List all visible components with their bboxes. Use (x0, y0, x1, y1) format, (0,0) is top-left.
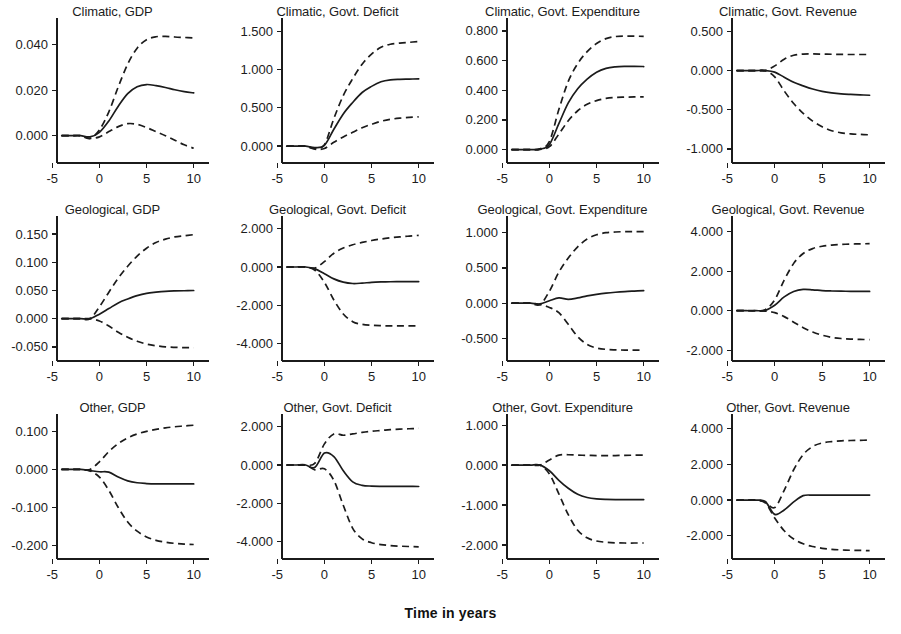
y-tick-label: -2.000 (236, 298, 273, 313)
x-tick-label: 10 (411, 567, 425, 582)
confidence-band-line (737, 440, 870, 508)
x-tick-label: 5 (143, 567, 150, 582)
y-tick-label: -1.000 (461, 498, 498, 513)
x-tick-label: 5 (368, 171, 375, 186)
plot-area: -0.5000.0000.5001.000-50510 (450, 198, 675, 396)
confidence-band-line (62, 425, 194, 470)
y-tick-label: 1.000 (465, 418, 498, 433)
y-tick-label: 1.500 (240, 24, 273, 39)
confidence-band-line (512, 303, 644, 350)
point-estimate-line (512, 291, 644, 304)
y-tick-label: 2.000 (240, 419, 273, 434)
confidence-band-line (737, 244, 870, 311)
point-estimate-line (737, 495, 870, 515)
plot-area: 0.0000.0200.040-50510 (0, 0, 225, 198)
confidence-band-line (62, 235, 194, 320)
x-tick-label: -5 (497, 369, 509, 384)
point-estimate-line (512, 66, 644, 149)
x-tick-label: -5 (721, 567, 733, 582)
y-tick-label: -0.100 (11, 500, 48, 515)
y-tick-label: 0.000 (15, 128, 48, 143)
y-tick-label: 0.000 (690, 63, 723, 78)
y-tick-label: 2.000 (690, 457, 723, 472)
x-tick-label: 5 (593, 567, 600, 582)
y-tick-label: 2.000 (690, 264, 723, 279)
y-tick-label: -2.000 (686, 528, 723, 543)
x-tick-label: -5 (47, 567, 59, 582)
y-tick-label: -0.500 (686, 102, 723, 117)
y-tick-label: 0.040 (15, 37, 48, 52)
x-tick-label: 10 (636, 567, 650, 582)
confidence-band-line (62, 319, 194, 348)
y-tick-label: 1.000 (240, 62, 273, 77)
point-estimate-line (737, 70, 870, 95)
point-estimate-line (62, 469, 194, 484)
x-tick-label: 0 (771, 369, 778, 384)
point-estimate-line (287, 452, 419, 486)
x-tick-label: 10 (636, 369, 650, 384)
y-tick-label: 0.600 (465, 53, 498, 68)
x-tick-label: 5 (593, 171, 600, 186)
confidence-band-line (512, 464, 644, 543)
y-tick-label: -4.000 (236, 534, 273, 549)
x-tick-label: 10 (411, 171, 425, 186)
x-tick-label: 5 (593, 369, 600, 384)
y-tick-label: 4.000 (690, 421, 723, 436)
point-estimate-line (287, 267, 419, 284)
y-tick-label: 0.000 (465, 142, 498, 157)
y-tick-label: -1.000 (686, 141, 723, 156)
plot-area: -0.0500.0000.0500.1000.150-50510 (0, 198, 225, 396)
chart-panel: Other, Govt. Expenditure-2.000-1.0000.00… (450, 396, 675, 594)
x-tick-label: 5 (819, 171, 826, 186)
y-tick-label: 2.000 (240, 221, 273, 236)
x-tick-label: 0 (321, 567, 328, 582)
confidence-band-line (287, 235, 419, 268)
point-estimate-line (62, 85, 194, 137)
y-tick-label: 0.000 (240, 458, 273, 473)
y-tick-label: -0.050 (11, 339, 48, 354)
x-tick-label: 10 (862, 171, 876, 186)
confidence-band-line (287, 428, 419, 465)
chart-panel: Climatic, Govt. Deficit0.0000.5001.0001.… (225, 0, 450, 198)
y-tick-label: -2.000 (461, 538, 498, 553)
x-tick-label: 5 (143, 171, 150, 186)
chart-panel: Geological, GDP-0.0500.0000.0500.1000.15… (0, 198, 225, 396)
chart-panel: Climatic, GDP0.0000.0200.040-50510 (0, 0, 225, 198)
y-tick-label: 0.000 (465, 296, 498, 311)
x-tick-label: 10 (862, 369, 876, 384)
y-tick-label: -4.000 (236, 336, 273, 351)
y-tick-label: 0.000 (465, 458, 498, 473)
x-tick-label: 10 (186, 171, 200, 186)
x-tick-label: 5 (143, 369, 150, 384)
y-tick-label: 0.000 (240, 139, 273, 154)
confidence-band-line (512, 36, 644, 150)
point-estimate-line (737, 289, 870, 311)
x-axis-label: Time in years (0, 605, 901, 621)
y-tick-label: -2.000 (236, 496, 273, 511)
y-tick-label: 0.000 (240, 260, 273, 275)
x-tick-label: 0 (96, 369, 103, 384)
y-tick-label: 0.000 (15, 462, 48, 477)
confidence-band-line (512, 455, 644, 466)
y-tick-label: 0.000 (15, 311, 48, 326)
chart-panel: Geological, Govt. Expenditure-0.5000.000… (450, 198, 675, 396)
chart-panel: Climatic, Govt. Revenue-1.000-0.5000.000… (675, 0, 901, 198)
x-tick-label: 10 (186, 567, 200, 582)
y-tick-label: 0.800 (465, 23, 498, 38)
y-tick-label: -0.500 (461, 331, 498, 346)
x-tick-label: 0 (96, 171, 103, 186)
x-tick-label: -5 (721, 369, 733, 384)
y-tick-label: 0.050 (15, 283, 48, 298)
y-tick-label: -2.000 (686, 343, 723, 358)
x-tick-label: 10 (636, 171, 650, 186)
x-tick-label: -5 (497, 171, 509, 186)
confidence-band-line (287, 465, 419, 547)
confidence-band-line (287, 117, 419, 150)
confidence-band-line (737, 500, 870, 551)
x-tick-label: 10 (411, 369, 425, 384)
point-estimate-line (62, 291, 194, 320)
x-tick-label: 5 (819, 567, 826, 582)
chart-grid: Climatic, GDP0.0000.0200.040-50510Climat… (0, 0, 901, 634)
chart-panel: Climatic, Govt. Expenditure0.0000.2000.4… (450, 0, 675, 198)
x-tick-label: 0 (546, 567, 553, 582)
